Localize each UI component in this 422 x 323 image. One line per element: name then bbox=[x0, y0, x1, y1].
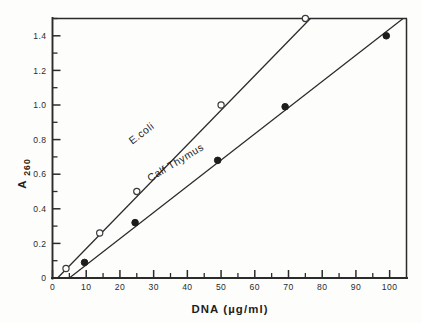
x-tick-label: 40 bbox=[182, 282, 192, 292]
x-tick-label: 80 bbox=[317, 282, 327, 292]
data-point-open bbox=[302, 15, 308, 21]
series-markers bbox=[63, 15, 390, 271]
y-tick-label: 1.2 bbox=[33, 66, 46, 76]
data-point-filled bbox=[81, 259, 88, 266]
y-tick-label: 1.4 bbox=[33, 31, 46, 41]
x-tick-label: 70 bbox=[283, 282, 293, 292]
series-inline-labels: E.coliCalf Thymus bbox=[127, 120, 206, 183]
series-line-e-coli bbox=[58, 19, 311, 279]
data-point-open bbox=[218, 102, 224, 108]
x-tick-label: 20 bbox=[115, 282, 125, 292]
series-label-group: E.coli bbox=[127, 120, 156, 146]
x-tick-label: 10 bbox=[81, 282, 91, 292]
data-point-filled bbox=[282, 103, 289, 110]
x-tick-label: 50 bbox=[216, 282, 226, 292]
y-tick-label: 0.6 bbox=[33, 169, 46, 179]
x-axis-tick-labels: 0102030405060708090100 bbox=[50, 282, 398, 292]
y-axis-title-base: A bbox=[16, 179, 28, 188]
x-tick-label: 0 bbox=[50, 282, 55, 292]
y-tick-label: 1.0 bbox=[33, 100, 46, 110]
x-tick-label: 60 bbox=[250, 282, 260, 292]
data-point-open bbox=[97, 230, 103, 236]
series-line-calf-thymus bbox=[69, 19, 403, 279]
y-axis-ticks bbox=[53, 19, 61, 279]
series-label-group: Calf Thymus bbox=[145, 141, 205, 183]
series-lines bbox=[58, 19, 404, 279]
x-tick-label: 100 bbox=[382, 282, 398, 292]
y-tick-label: 0.4 bbox=[33, 204, 46, 214]
y-axis-title: A 260 bbox=[16, 158, 32, 188]
series-label-e-coli: E.coli bbox=[127, 120, 156, 146]
series-label-calf-thymus: Calf Thymus bbox=[145, 141, 205, 183]
chart-figure: 00.20.40.60.81.01.21.4 01020304050607080… bbox=[0, 0, 422, 323]
y-tick-label: 0.2 bbox=[33, 239, 46, 249]
data-point-filled bbox=[214, 157, 221, 164]
y-axis-tick-labels: 00.20.40.60.81.01.21.4 bbox=[33, 31, 46, 283]
y-tick-label: 0.8 bbox=[33, 135, 46, 145]
x-axis-title: DNA (µg/ml) bbox=[191, 303, 268, 315]
y-tick-label: 0 bbox=[41, 273, 46, 283]
x-tick-label: 90 bbox=[351, 282, 361, 292]
y-axis-title-subscript: 260 bbox=[22, 158, 32, 176]
x-tick-label: 30 bbox=[148, 282, 158, 292]
x-axis-ticks bbox=[53, 270, 390, 278]
chart-plot-area: 00.20.40.60.81.01.21.4 01020304050607080… bbox=[0, 0, 422, 323]
data-point-open bbox=[134, 188, 140, 194]
data-point-filled bbox=[132, 219, 139, 226]
data-point-filled bbox=[383, 33, 390, 40]
data-point-open bbox=[63, 265, 69, 271]
